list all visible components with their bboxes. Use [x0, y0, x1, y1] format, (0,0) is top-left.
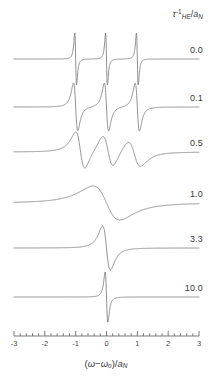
trace-label-0-0: 0.0: [157, 45, 203, 55]
legend-tau-subscript: HE: [182, 13, 191, 20]
x-axis-tick-label: 3: [189, 339, 209, 348]
spectrum-trace: [14, 33, 199, 85]
trace-label-0-5: 0.5: [157, 138, 203, 148]
trace-label-3-3: 3.3: [157, 234, 203, 244]
x-axis-tick-label: 0: [97, 339, 117, 348]
x-axis-tick-label: -2: [35, 339, 55, 348]
xtitle-omega-zero: ω: [101, 358, 108, 369]
legend-title: τ-1HE/aN: [173, 8, 203, 20]
trace-label-0-1: 0.1: [157, 93, 203, 103]
spectrum-trace: [14, 272, 199, 322]
trace-label-1-0: 1.0: [157, 189, 203, 199]
x-axis-title: (ω−ωo)/aN: [0, 358, 212, 369]
spectrum-trace: [14, 83, 199, 131]
legend-a-subscript: N: [198, 13, 203, 20]
x-axis-tick-label: -1: [66, 339, 86, 348]
x-axis-tick-label: 2: [158, 339, 178, 348]
xtitle-omega: ω: [88, 358, 95, 369]
x-axis: [14, 331, 199, 336]
x-axis-tick-label: 1: [127, 339, 147, 348]
xtitle-a-subscript: N: [123, 362, 128, 369]
spectrum-trace: [14, 226, 199, 270]
x-axis-tick-label: -3: [4, 339, 24, 348]
trace-label-10-0: 10.0: [157, 283, 203, 293]
spectra-traces: [14, 33, 199, 322]
